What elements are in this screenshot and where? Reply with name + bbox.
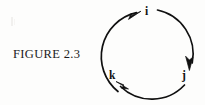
node-label-j: j [182, 70, 186, 82]
cycle-diagram [0, 0, 205, 105]
figure-container: FIGURE 2.3 i j k [0, 0, 205, 105]
edge-j-to-k [121, 85, 185, 99]
arrowhead-at-k [116, 82, 129, 90]
node-label-k: k [109, 70, 115, 82]
edge-k-to-i [101, 13, 136, 92]
node-label-i: i [145, 6, 148, 18]
edge-i-to-j [158, 10, 194, 63]
